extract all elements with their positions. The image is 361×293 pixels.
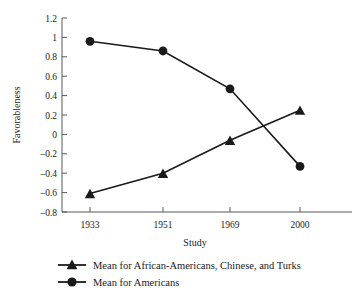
data-point-marker	[85, 189, 95, 198]
data-point-marker	[225, 136, 235, 145]
y-tick-marks	[62, 18, 67, 212]
x-tick-label: 1933	[81, 220, 100, 230]
data-point-marker	[295, 105, 305, 114]
x-axis-title: Study	[183, 237, 206, 248]
x-tick-label: 1951	[154, 220, 173, 230]
y-tick-label: 0	[52, 130, 57, 140]
axis-group	[62, 18, 352, 212]
series-mean-for-african-americans-chinese-turks	[85, 105, 305, 198]
y-tick-label: 0.6	[45, 72, 57, 82]
x-tick-label: 1969	[221, 220, 240, 230]
y-tick-label: 0.4	[45, 91, 57, 101]
y-tick-labels: 1.2 1 0.8 0.6 0.4 0.2 0 –0.2 –0.4 –0.6 –…	[39, 14, 57, 218]
y-tick-label: 0.2	[45, 111, 57, 121]
series-line-americans	[90, 41, 300, 166]
data-point-marker	[226, 84, 235, 93]
y-tick-label: 0.8	[45, 52, 57, 62]
circle-marker-icon	[67, 277, 76, 286]
series-mean-for-americans	[86, 37, 305, 171]
chart-figure: 1.2 1 0.8 0.6 0.4 0.2 0 –0.2 –0.4 –0.6 –…	[0, 0, 361, 293]
legend-label-aact: Mean for African-Americans, Chinese, and…	[93, 260, 301, 271]
x-tick-label: 2000	[291, 220, 310, 230]
y-tick-label: –0.6	[39, 188, 57, 198]
data-point-marker	[159, 47, 168, 56]
data-point-marker	[296, 162, 305, 171]
y-tick-label: –0.2	[39, 149, 57, 159]
legend-item-americans: Mean for Americans	[58, 277, 179, 288]
chart-legend: Mean for African-Americans, Chinese, and…	[58, 260, 301, 289]
data-point-marker	[86, 37, 95, 46]
data-point-marker	[158, 169, 168, 178]
y-tick-label: 1	[52, 33, 57, 43]
x-tick-labels: 1933 1951 1969 2000	[81, 220, 310, 230]
y-axis-title: Favorableness	[11, 86, 22, 143]
y-tick-label: 1.2	[45, 14, 57, 24]
x-tick-marks	[90, 207, 300, 212]
y-tick-label: –0.4	[39, 169, 57, 179]
legend-item-aact: Mean for African-Americans, Chinese, and…	[58, 260, 301, 272]
favorableness-line-chart: 1.2 1 0.8 0.6 0.4 0.2 0 –0.2 –0.4 –0.6 –…	[0, 0, 361, 293]
series-line-aact	[90, 110, 300, 193]
legend-label-americans: Mean for Americans	[93, 277, 179, 288]
y-tick-label: –0.8	[39, 208, 57, 218]
